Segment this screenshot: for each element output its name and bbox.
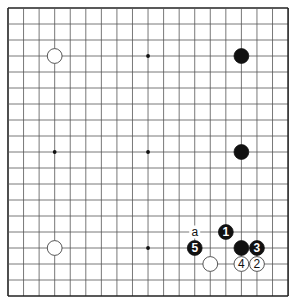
black-stone-icon (234, 49, 249, 64)
black-stone-move-1: 1 (218, 225, 233, 240)
move-number: 1 (222, 225, 229, 239)
star-point (146, 150, 150, 154)
stones: 12345 (47, 49, 264, 272)
go-board-diagram: a 12345 (0, 0, 295, 308)
black-stone-icon (234, 145, 249, 160)
move-number: 3 (254, 241, 261, 255)
move-number: 4 (238, 257, 245, 271)
white-stone-icon (47, 49, 62, 64)
white-stone (203, 257, 218, 272)
white-stone (47, 241, 62, 256)
star-point (53, 150, 57, 154)
star-point (146, 54, 150, 58)
point-marker: a (189, 225, 200, 239)
position-markers: a (189, 225, 200, 239)
white-stone (47, 49, 62, 64)
white-stone-icon (47, 241, 62, 256)
star-point (146, 246, 150, 250)
black-stone (234, 49, 249, 64)
white-stone-move-2: 2 (250, 257, 265, 272)
black-stone-icon (234, 241, 249, 256)
point-marker-label: a (191, 225, 198, 239)
black-stone-move-3: 3 (250, 241, 265, 256)
white-stone-move-4: 4 (234, 257, 249, 272)
move-number: 2 (254, 257, 261, 271)
black-stone-move-5: 5 (187, 241, 202, 256)
black-stone (234, 145, 249, 160)
white-stone-icon (203, 257, 218, 272)
black-stone (234, 241, 249, 256)
move-number: 5 (191, 241, 198, 255)
